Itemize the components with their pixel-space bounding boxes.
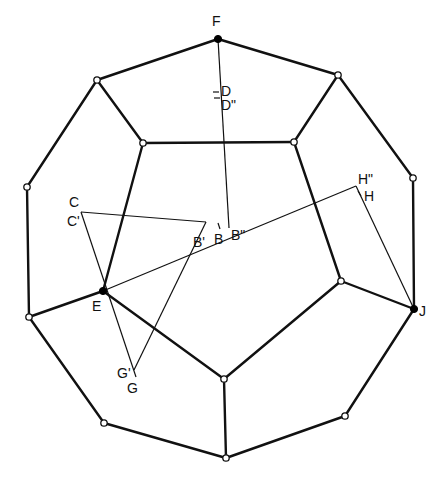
- label-F: F: [212, 13, 221, 29]
- edge-F-v2: [218, 39, 338, 75]
- label-J: J: [419, 303, 426, 319]
- edge-v5-v8: [27, 187, 29, 317]
- label-H2: H": [358, 171, 373, 187]
- label-E: E: [92, 298, 101, 314]
- label-G1: G': [117, 365, 131, 381]
- edge-v1-v5: [27, 80, 97, 187]
- vertex-v3-open: [140, 140, 146, 146]
- edge-v1-v3: [97, 80, 143, 143]
- construction-lines: [81, 39, 414, 377]
- construction-line: [218, 39, 229, 228]
- vertex-v7-open: [338, 278, 344, 284]
- label-C: C: [69, 194, 79, 210]
- label-H: H: [364, 188, 374, 204]
- tick-mark: [218, 223, 220, 229]
- label-D2: D": [221, 97, 236, 113]
- label-B2: B": [231, 227, 245, 243]
- edge-v11-v12: [226, 416, 345, 458]
- edge-v9-v12: [224, 379, 226, 458]
- point-labels: FDD"CC'B'BB"H"HEJG'G: [67, 13, 426, 396]
- edge-v3-v4: [143, 142, 294, 143]
- edge-v2-v4: [294, 75, 338, 142]
- edge-v4-v7: [294, 142, 341, 281]
- tick-mark: [358, 191, 361, 196]
- edge-v2-v6: [338, 75, 413, 178]
- edge-v6-J: [413, 178, 414, 309]
- vertex-v1-open: [94, 77, 100, 83]
- vertex-J-filled: [410, 305, 417, 312]
- construction-line: [81, 212, 136, 377]
- edge-F-v1: [97, 39, 218, 80]
- vertex-v10-open: [101, 420, 107, 426]
- vertex-v8-open: [26, 314, 32, 320]
- label-B: B: [214, 231, 223, 247]
- vertex-E-filled: [99, 287, 106, 294]
- construction-line: [81, 212, 206, 222]
- vertex-v5-open: [24, 184, 30, 190]
- vertex-v12-open: [223, 455, 229, 461]
- vertex-v4-open: [291, 139, 297, 145]
- label-B1: B': [193, 234, 205, 250]
- label-G: G: [127, 380, 138, 396]
- construction-line: [103, 186, 356, 291]
- edge-J-v11: [345, 309, 414, 416]
- edge-v7-v9: [224, 281, 341, 379]
- vertex-v2-open: [335, 72, 341, 78]
- edge-v8-v10: [29, 317, 104, 423]
- vertex-v11-open: [342, 413, 348, 419]
- edge-v10-v12: [104, 423, 226, 458]
- vertex-v6-open: [410, 175, 416, 181]
- vertex-v9-open: [221, 376, 227, 382]
- vertex-F-filled: [214, 35, 221, 42]
- label-C1: C': [67, 213, 80, 229]
- polyhedron-diagram: FDD"CC'B'BB"H"HEJG'G: [0, 0, 442, 487]
